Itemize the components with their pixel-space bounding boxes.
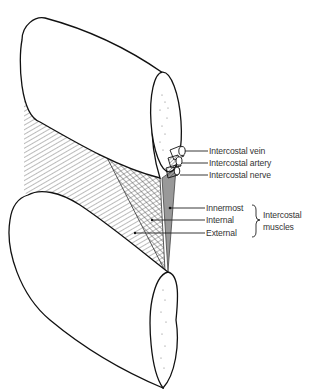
label-innermost: Innermost bbox=[206, 203, 243, 213]
label-external: External bbox=[206, 228, 237, 238]
label-intercostal-artery: Intercostal artery bbox=[209, 158, 271, 168]
label-internal: Internal bbox=[206, 215, 234, 225]
intercostal-diagram bbox=[0, 0, 311, 389]
label-group-line1: Intercostal bbox=[263, 210, 302, 220]
muscle-group-brace bbox=[252, 205, 260, 237]
label-intercostal-nerve: Intercostal nerve bbox=[209, 170, 271, 180]
label-intercostal-vein: Intercostal vein bbox=[209, 146, 265, 156]
label-group-line2: muscles bbox=[263, 222, 294, 232]
